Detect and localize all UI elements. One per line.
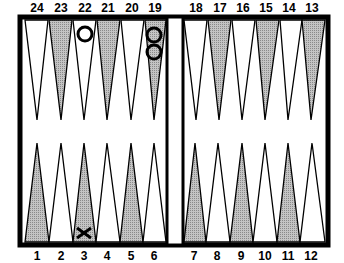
checker-o-point-22 (78, 27, 92, 41)
point-label: 17 (208, 1, 232, 15)
point-label: 3 (72, 249, 96, 263)
point-label: 15 (254, 1, 278, 15)
point-label: 7 (182, 249, 206, 263)
point-label: 6 (142, 249, 166, 263)
point-label: 19 (143, 1, 167, 15)
point-label: 23 (49, 1, 73, 15)
point-label: 21 (96, 1, 120, 15)
point-label: 8 (205, 249, 229, 263)
point-label: 16 (231, 1, 255, 15)
point-label: 24 (25, 1, 49, 15)
point-label: 4 (95, 249, 119, 263)
point-label: 10 (253, 249, 277, 263)
point-label: 11 (276, 249, 300, 263)
point-label: 22 (73, 1, 97, 15)
point-label: 1 (25, 249, 49, 263)
point-label: 9 (229, 249, 253, 263)
point-label: 14 (277, 1, 301, 15)
point-label: 12 (299, 249, 323, 263)
point-label: 2 (49, 249, 73, 263)
point-label: 13 (300, 1, 324, 15)
point-label: 20 (120, 1, 144, 15)
board-graphic (0, 0, 344, 263)
bar (167, 17, 183, 245)
point-label: 18 (184, 1, 208, 15)
point-label: 5 (119, 249, 143, 263)
